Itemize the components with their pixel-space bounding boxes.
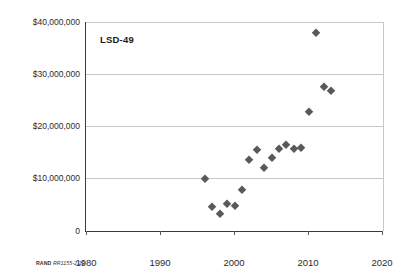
scatter-chart-figure: $40,000,000 $30,000,000 $20,000,000 $10,… bbox=[0, 0, 408, 278]
x-tick-mark bbox=[160, 231, 161, 235]
data-point bbox=[223, 200, 232, 209]
data-point bbox=[267, 154, 276, 163]
data-point bbox=[312, 29, 321, 38]
x-tick-mark bbox=[382, 231, 383, 235]
data-point bbox=[238, 185, 247, 194]
data-point bbox=[304, 108, 313, 117]
x-tick-mark bbox=[308, 231, 309, 235]
data-point bbox=[260, 163, 269, 172]
y-axis-tick-labels: $40,000,000 $30,000,000 $20,000,000 $10,… bbox=[0, 0, 80, 278]
gridline-40m bbox=[86, 22, 383, 23]
x-tick-label: 1990 bbox=[149, 258, 170, 268]
data-point bbox=[245, 156, 254, 165]
x-tick-mark bbox=[86, 231, 87, 235]
x-tick-mark bbox=[234, 231, 235, 235]
credit-org: RAND bbox=[36, 260, 51, 266]
data-point bbox=[230, 202, 239, 211]
data-point bbox=[215, 210, 224, 219]
data-point bbox=[297, 144, 306, 153]
credit-id: RR1155-2.10 bbox=[53, 260, 85, 266]
data-point bbox=[327, 87, 336, 96]
y-tick-label: 0 bbox=[75, 227, 80, 236]
y-tick-label: $40,000,000 bbox=[33, 18, 80, 27]
data-point bbox=[252, 146, 261, 155]
y-tick-label: $30,000,000 bbox=[33, 70, 80, 79]
gridline-20m bbox=[86, 126, 383, 127]
x-tick-label: 2010 bbox=[297, 258, 318, 268]
x-tick-label: 2020 bbox=[371, 258, 392, 268]
plot-right-border bbox=[383, 22, 384, 231]
plot-area: LSD-49 1980 1990 2000 2010 2020 bbox=[85, 22, 383, 232]
x-tick-label: 2000 bbox=[223, 258, 244, 268]
data-point bbox=[208, 203, 217, 212]
gridline-10m bbox=[86, 178, 383, 179]
gridline-30m bbox=[86, 74, 383, 75]
series-title-label: LSD-49 bbox=[100, 34, 134, 45]
y-tick-label: $10,000,000 bbox=[33, 174, 80, 183]
data-point bbox=[200, 174, 209, 183]
y-tick-label: $20,000,000 bbox=[33, 122, 80, 131]
figure-credit: RAND RR1155-2.10 bbox=[36, 260, 85, 266]
